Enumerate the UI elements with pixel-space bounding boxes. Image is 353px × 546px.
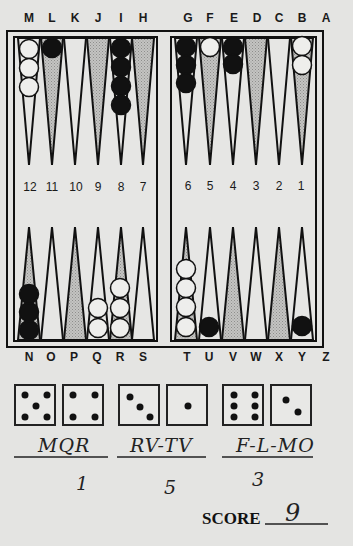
label-V: V <box>229 350 237 364</box>
move-note-2: RV-TV <box>130 434 193 456</box>
label-U: U <box>205 350 214 364</box>
die-six <box>222 384 264 426</box>
label-O: O <box>46 350 55 364</box>
point-number: 10 <box>69 180 82 194</box>
label-P: P <box>70 350 78 364</box>
point-number: 2 <box>276 179 283 193</box>
point-number: 5 <box>207 179 214 193</box>
point-number: 11 <box>46 180 58 194</box>
label-W: W <box>250 350 261 364</box>
label-Y: Y <box>298 350 306 364</box>
die-two <box>270 384 312 426</box>
label-S: S <box>139 350 147 364</box>
move-note-1: MQR <box>38 434 90 456</box>
point-number: 8 <box>118 180 125 194</box>
move-value-2: 5 <box>164 476 177 498</box>
label-R: R <box>116 350 125 364</box>
point-number: 3 <box>253 179 260 193</box>
move-value-1: 1 <box>76 472 89 494</box>
label-N: N <box>25 350 34 364</box>
score-label: SCORE <box>202 509 261 529</box>
die-five <box>14 384 56 426</box>
label-Q: Q <box>92 350 101 364</box>
point-number: 6 <box>185 179 192 193</box>
point-number: 9 <box>95 180 102 194</box>
label-T: T <box>183 350 190 364</box>
point-number: 1 <box>298 179 305 193</box>
label-X: X <box>275 350 283 364</box>
move-value-3: 3 <box>252 468 265 490</box>
die-four <box>62 384 104 426</box>
label-Z: Z <box>322 350 329 364</box>
score-value: 9 <box>285 499 301 527</box>
point-number: 4 <box>230 179 237 193</box>
die-one <box>166 384 208 426</box>
die-three <box>118 384 160 426</box>
point-number: 12 <box>23 180 36 194</box>
backgammon-board <box>0 0 353 546</box>
point-number: 7 <box>140 180 147 194</box>
move-note-3: F-L-MO <box>236 434 315 456</box>
